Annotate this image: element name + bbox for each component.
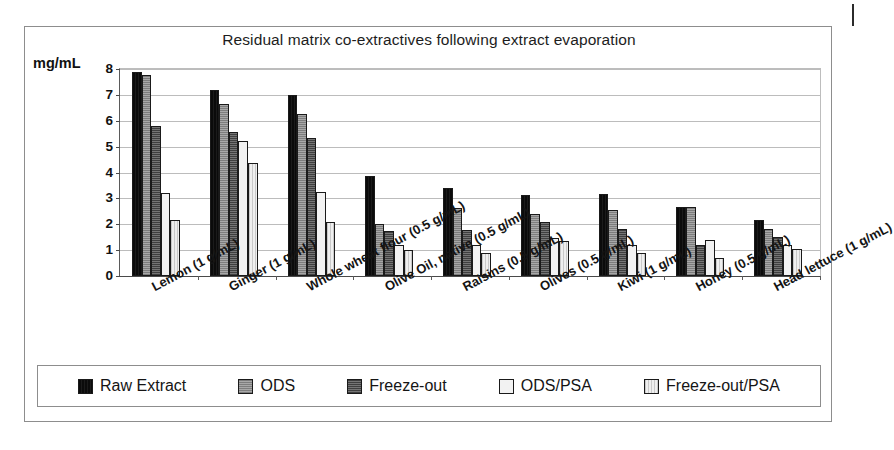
legend-item-label: Raw Extract: [100, 377, 186, 395]
legend-swatch-icon: [347, 379, 362, 394]
x-axis-tick-mark: [353, 276, 354, 280]
legend-item-label: Freeze-out/PSA: [666, 377, 780, 395]
y-axis-tick-mark: [116, 121, 120, 122]
x-axis-tick-mark: [431, 276, 432, 280]
bar[interactable]: [142, 75, 152, 276]
legend-item[interactable]: Freeze-out/PSA: [644, 377, 780, 395]
x-axis-tick-mark: [742, 276, 743, 280]
bar[interactable]: [161, 193, 171, 276]
bar-group-bars: [132, 69, 180, 276]
x-axis-tick-mark: [664, 276, 665, 280]
x-axis-tick-mark: [198, 276, 199, 280]
legend-item[interactable]: ODS: [238, 377, 295, 395]
y-axis-tick-label: 4: [105, 166, 113, 180]
y-axis-tick-label: 5: [105, 140, 113, 154]
y-axis-tick-mark: [116, 250, 120, 251]
chart-frame: Residual matrix co-extractives following…: [24, 26, 832, 422]
x-axis-tick-mark: [587, 276, 588, 280]
y-axis-tick-mark: [116, 95, 120, 96]
y-axis-tick-label: 1: [105, 243, 113, 257]
y-axis-tick-mark: [116, 198, 120, 199]
x-axis-tick-mark: [276, 276, 277, 280]
y-axis-tick-mark: [116, 147, 120, 148]
bar[interactable]: [248, 163, 258, 276]
x-axis-tick-mark: [820, 276, 821, 280]
legend-item-label: Freeze-out: [369, 377, 446, 395]
y-axis-tick-label: 0: [105, 269, 113, 283]
chart-legend: Raw ExtractODSFreeze-outODS/PSAFreeze-ou…: [37, 365, 821, 407]
bar[interactable]: [307, 138, 317, 276]
y-axis-tick-mark: [116, 173, 120, 174]
bar[interactable]: [132, 72, 142, 276]
legend-item[interactable]: Raw Extract: [78, 377, 186, 395]
bar[interactable]: [686, 207, 696, 276]
y-axis-tick-mark: [116, 69, 120, 70]
legend-item-label: ODS: [260, 377, 295, 395]
chart-title: Residual matrix co-extractives following…: [25, 31, 833, 49]
legend-item[interactable]: ODS/PSA: [499, 377, 592, 395]
bar[interactable]: [238, 141, 248, 276]
bar[interactable]: [151, 126, 161, 276]
legend-swatch-icon: [78, 379, 93, 394]
bar[interactable]: [316, 192, 326, 276]
legend-item-label: ODS/PSA: [521, 377, 592, 395]
y-axis-tick-mark: [116, 276, 120, 277]
bar-group: [132, 69, 180, 276]
legend-swatch-icon: [238, 379, 253, 394]
bar[interactable]: [696, 245, 706, 276]
legend-swatch-icon: [499, 379, 514, 394]
bar[interactable]: [676, 207, 686, 276]
y-axis-tick-label: 7: [105, 88, 113, 102]
y-axis-tick-label: 6: [105, 114, 113, 128]
legend-item[interactable]: Freeze-out: [347, 377, 446, 395]
x-axis-tick-mark: [509, 276, 510, 280]
y-axis-tick-label: 8: [105, 62, 113, 76]
y-axis-unit-label: mg/mL: [33, 55, 81, 71]
legend-swatch-icon: [644, 379, 659, 394]
y-axis-tick-mark: [116, 224, 120, 225]
scan-artifact-mark: [852, 4, 854, 26]
y-axis-tick-label: 2: [105, 218, 113, 232]
y-axis-tick-label: 3: [105, 192, 113, 206]
